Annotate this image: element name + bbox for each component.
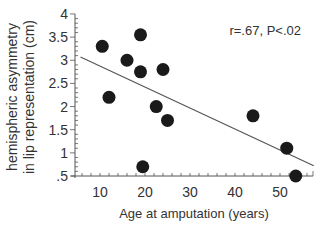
x-axis-label: Age at amputation (years): [119, 206, 269, 221]
y-tick-label: 2: [60, 99, 68, 115]
y-tick-label: 1.5: [49, 122, 69, 138]
chart-canvas: .511.522.533.541020304050 r=.67, P<.02 A…: [0, 0, 322, 233]
data-point: [157, 63, 170, 76]
x-tick-label: 40: [227, 184, 243, 200]
y-tick-label: .5: [56, 168, 68, 184]
correlation-annotation: r=.67, P<.02: [229, 23, 301, 38]
data-point: [161, 114, 174, 127]
data-point: [96, 40, 109, 53]
y-tick-label: 1: [60, 145, 68, 161]
trend-line: [81, 57, 314, 166]
x-tick-label: 10: [92, 184, 108, 200]
data-point: [103, 91, 116, 104]
x-tick-label: 20: [137, 184, 153, 200]
x-tick-label: 50: [272, 184, 288, 200]
data-point: [136, 160, 149, 173]
regression-line: [81, 57, 314, 166]
y-tick-label: 4: [60, 6, 68, 22]
x-tick-label: 30: [182, 184, 198, 200]
data-point: [247, 109, 260, 122]
y-tick-label: 2.5: [49, 75, 69, 91]
data-point: [134, 28, 147, 41]
data-points: [96, 28, 303, 182]
y-tick-label: 3: [60, 52, 68, 68]
data-point: [121, 54, 134, 67]
y-axis-label-line-1: hemispheric asymmetry: [4, 23, 20, 171]
scatter-chart: .511.522.533.541020304050 r=.67, P<.02 A…: [0, 0, 322, 233]
data-point: [150, 100, 163, 113]
data-point: [280, 142, 293, 155]
y-tick-label: 3.5: [49, 29, 69, 45]
data-point: [289, 170, 302, 183]
y-axis-label-line-2: in lip representation (cm): [21, 20, 37, 174]
data-point: [134, 65, 147, 78]
